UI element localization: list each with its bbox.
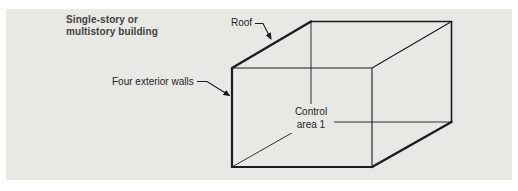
roof-label: Roof	[231, 17, 252, 29]
roof-leader-arrow	[255, 24, 271, 40]
leader-lines	[197, 24, 271, 96]
building-interior-edges	[232, 22, 452, 168]
building-type-line2: multistory building	[66, 26, 158, 38]
building-type-label: Single-story or multistory building	[66, 14, 158, 37]
walls-leader-arrow	[197, 82, 230, 96]
building-hidden-edges	[232, 22, 452, 168]
building-type-line1: Single-story or	[66, 14, 158, 26]
building-outline	[232, 22, 452, 168]
bottom-right-edge	[372, 122, 452, 167]
figure: Single-story or multistory building Roof…	[0, 0, 518, 191]
roof-right-edge	[372, 22, 452, 69]
control-area-label: Control area 1	[288, 104, 334, 133]
walls-label: Four exterior walls	[112, 76, 194, 88]
control-area-line2: area 1	[288, 119, 334, 132]
control-area-line1: Control	[288, 106, 334, 119]
